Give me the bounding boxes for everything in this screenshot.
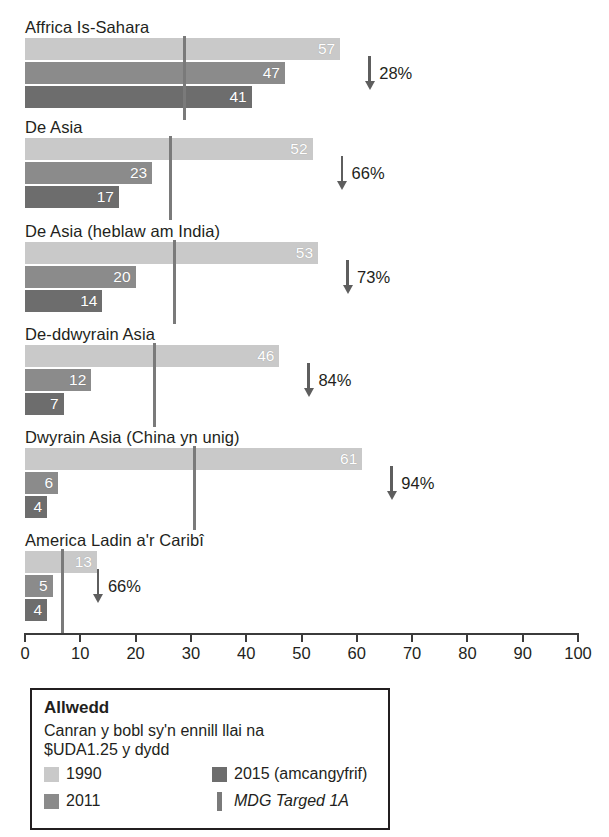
axis-tick-label: 60 bbox=[348, 644, 366, 663]
bar[interactable]: 4 bbox=[25, 496, 47, 518]
legend-entries: 19902015 (amcangyfrif)2011MDG Targed 1A bbox=[44, 761, 376, 817]
bar[interactable]: 53 bbox=[25, 242, 318, 264]
reduction-annotation: 28% bbox=[364, 56, 412, 90]
legend-entry-label: 2015 (amcangyfrif) bbox=[234, 765, 367, 783]
bar-row: 20 bbox=[25, 266, 578, 288]
bar[interactable]: 20 bbox=[25, 266, 136, 288]
arrow-down-icon bbox=[364, 56, 375, 90]
bar-value-label: 5 bbox=[39, 577, 48, 595]
axis-tick bbox=[577, 633, 579, 642]
reduction-value: 66% bbox=[352, 164, 385, 183]
axis-tick-label: 90 bbox=[514, 644, 532, 663]
reduction-value: 84% bbox=[318, 371, 351, 390]
axis-tick bbox=[79, 633, 81, 642]
bar-row: 17 bbox=[25, 186, 578, 208]
axis-tick bbox=[411, 633, 413, 642]
bar-value-label: 53 bbox=[296, 244, 313, 262]
bar-value-label: 17 bbox=[97, 188, 114, 206]
arrow-down-icon bbox=[386, 466, 397, 500]
bar[interactable]: 5 bbox=[25, 575, 53, 597]
bar[interactable]: 41 bbox=[25, 86, 252, 108]
bar-row: 46 bbox=[25, 345, 578, 367]
legend-entry: 1990 bbox=[44, 761, 102, 787]
legend-entry-label: MDG Targed 1A bbox=[234, 792, 349, 810]
bar-value-label: 47 bbox=[263, 64, 280, 82]
mdg-target-line bbox=[173, 240, 176, 324]
group-label: De Asia bbox=[25, 118, 83, 136]
bar[interactable]: 6 bbox=[25, 472, 58, 494]
bar-row: 52 bbox=[25, 138, 578, 160]
axis-tick bbox=[190, 633, 192, 642]
legend-entry: 2011 bbox=[44, 788, 100, 814]
axis-tick-label: 10 bbox=[71, 644, 89, 663]
axis-tick-label: 20 bbox=[126, 644, 144, 663]
axis-tick bbox=[135, 633, 137, 642]
mdg-target-line bbox=[193, 446, 196, 530]
bar-row: 47 bbox=[25, 62, 578, 84]
bar-value-label: 57 bbox=[318, 40, 335, 58]
bar-row: 23 bbox=[25, 162, 578, 184]
arrow-down-icon bbox=[93, 569, 104, 603]
legend-description-line1: Canran y bobl sy'n ennill llai na bbox=[44, 721, 376, 740]
bar-row: 6 bbox=[25, 472, 578, 494]
axis-tick bbox=[245, 633, 247, 642]
legend-swatch-icon bbox=[212, 767, 227, 782]
bar-value-label: 14 bbox=[80, 292, 97, 310]
bar-value-label: 7 bbox=[50, 395, 59, 413]
bar-value-label: 4 bbox=[33, 601, 42, 619]
axis-tick bbox=[522, 633, 524, 642]
bar-value-label: 61 bbox=[340, 450, 357, 468]
legend-entry-label: 1990 bbox=[66, 765, 102, 783]
bar-row: 4 bbox=[25, 496, 578, 518]
group-label: De Asia (heblaw am India) bbox=[25, 222, 220, 240]
legend-swatch-icon bbox=[44, 794, 59, 809]
group-label: America Ladin a'r Caribî bbox=[25, 531, 204, 549]
legend-swatch-icon bbox=[44, 767, 59, 782]
bar[interactable]: 7 bbox=[25, 393, 64, 415]
reduction-value: 28% bbox=[379, 64, 412, 83]
arrow-down-icon bbox=[337, 156, 348, 190]
axis-tick-label: 0 bbox=[20, 644, 29, 663]
bar-value-label: 52 bbox=[290, 140, 307, 158]
bar[interactable]: 4 bbox=[25, 599, 47, 621]
bar-value-label: 6 bbox=[45, 474, 54, 492]
axis-tick bbox=[24, 633, 26, 642]
axis-tick bbox=[466, 633, 468, 642]
bar-value-label: 20 bbox=[113, 268, 130, 286]
reduction-value: 94% bbox=[401, 474, 434, 493]
bar[interactable]: 23 bbox=[25, 162, 152, 184]
mdg-target-line bbox=[61, 549, 64, 633]
bar-row: 41 bbox=[25, 86, 578, 108]
legend-title: Allwedd bbox=[44, 698, 376, 718]
reduction-annotation: 66% bbox=[93, 569, 141, 603]
bar[interactable]: 17 bbox=[25, 186, 119, 208]
bar-row: 57 bbox=[25, 38, 578, 60]
legend-description: Canran y bobl sy'n ennill llai na $UDA1.… bbox=[44, 721, 376, 759]
legend-target-line-icon bbox=[217, 792, 222, 811]
legend-entry-label: 2011 bbox=[66, 792, 100, 810]
chart-legend: Allwedd Canran y bobl sy'n ennill llai n… bbox=[30, 688, 390, 830]
mdg-target-line bbox=[183, 36, 186, 120]
reduction-value: 73% bbox=[357, 268, 390, 287]
bar[interactable]: 47 bbox=[25, 62, 285, 84]
bar[interactable]: 12 bbox=[25, 369, 91, 391]
bar-row: 7 bbox=[25, 393, 578, 415]
axis-tick-label: 70 bbox=[403, 644, 421, 663]
bar-chart: Affrica Is-Sahara57474128%De Asia5223176… bbox=[0, 0, 609, 837]
group-label: Dwyrain Asia (China yn unig) bbox=[25, 428, 240, 446]
legend-entry: MDG Targed 1A bbox=[212, 788, 349, 814]
bar[interactable]: 14 bbox=[25, 290, 102, 312]
axis-tick bbox=[301, 633, 303, 642]
mdg-target-line bbox=[169, 136, 172, 220]
bar-value-label: 4 bbox=[33, 498, 42, 516]
group-label: De-ddwyrain Asia bbox=[25, 325, 155, 343]
bar-value-label: 23 bbox=[130, 164, 147, 182]
legend-entry: 2015 (amcangyfrif) bbox=[212, 761, 367, 787]
bar-value-label: 41 bbox=[229, 88, 246, 106]
reduction-annotation: 73% bbox=[342, 260, 390, 294]
mdg-target-line bbox=[153, 343, 156, 427]
bar-row: 12 bbox=[25, 369, 578, 391]
bar[interactable]: 46 bbox=[25, 345, 279, 367]
axis-tick bbox=[356, 633, 358, 642]
bar-row: 14 bbox=[25, 290, 578, 312]
